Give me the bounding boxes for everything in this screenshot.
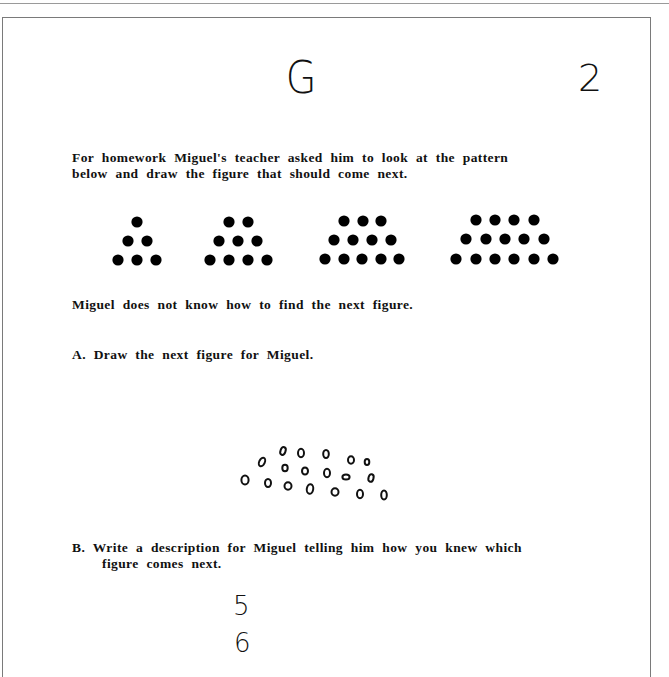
question-a: A. Draw the next figure for Miguel. (72, 347, 313, 363)
figure-2 (204, 216, 272, 265)
figure-1 (112, 216, 161, 265)
handwritten-answer-line-2: 6 (234, 628, 251, 658)
question-b-line-1: B. Write a description for Miguel tellin… (72, 540, 522, 555)
problem-statement: Miguel does not know how to find the nex… (72, 297, 413, 313)
figure-3 (319, 215, 404, 264)
question-b: B. Write a description for Miguel tellin… (72, 540, 522, 572)
question-b-line-2: figure comes next. (72, 556, 522, 572)
student-drawing (241, 446, 386, 499)
handwritten-answer-line-1: 5 (233, 591, 250, 621)
figure-4 (450, 214, 558, 264)
